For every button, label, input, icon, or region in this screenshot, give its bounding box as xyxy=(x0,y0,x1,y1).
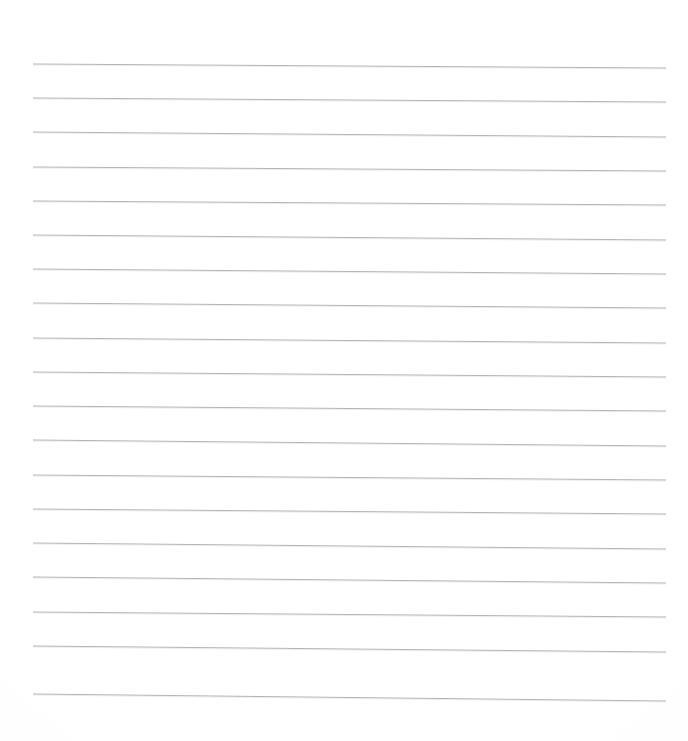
lined-paper-page xyxy=(0,0,688,741)
writing-area[interactable] xyxy=(33,48,666,718)
